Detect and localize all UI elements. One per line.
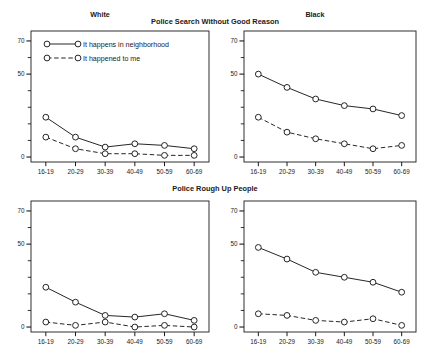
data-point-marker xyxy=(313,269,319,275)
legend-marker xyxy=(75,55,81,61)
data-point-marker xyxy=(132,141,138,147)
data-point-marker xyxy=(399,143,405,149)
legend: It happens in neighborhoodIt happened to… xyxy=(44,41,169,63)
data-point-marker xyxy=(73,134,79,140)
data-point-marker xyxy=(255,311,261,317)
data-point-marker xyxy=(73,299,79,305)
data-point-marker xyxy=(341,319,347,325)
data-point-marker xyxy=(162,311,168,317)
y-tick-label: 0 xyxy=(234,323,238,330)
series-line-happened-to-me xyxy=(258,314,401,326)
y-tick-label: 50 xyxy=(230,240,238,247)
x-tick-label: 50-59 xyxy=(365,338,382,345)
y-tick-label: 0 xyxy=(21,153,25,160)
x-tick-label: 50-59 xyxy=(156,338,173,345)
data-point-marker xyxy=(43,134,49,140)
data-point-marker xyxy=(313,136,319,142)
x-tick-label: 60-69 xyxy=(186,338,203,345)
x-tick-label: 30-39 xyxy=(308,168,325,175)
data-point-marker xyxy=(341,274,347,280)
data-point-marker xyxy=(255,71,261,77)
y-tick-label: 50 xyxy=(230,70,238,77)
data-point-marker xyxy=(162,152,168,158)
panel-frame xyxy=(244,201,416,332)
row-title-police-search: Police Search Without Good Reason xyxy=(110,17,320,26)
panel-group-black-3: 0507016-1920-2930-3940-4950-5960-69 xyxy=(230,201,416,345)
data-point-marker xyxy=(102,151,108,157)
x-tick-label: 60-69 xyxy=(394,168,411,175)
data-point-marker xyxy=(370,106,376,112)
data-point-marker xyxy=(43,319,49,325)
y-tick-label: 70 xyxy=(17,37,25,44)
plot-canvas: 0507016-1920-2930-3940-4950-5960-6905070… xyxy=(0,0,425,360)
data-point-marker xyxy=(43,114,49,120)
x-tick-label: 20-29 xyxy=(279,338,296,345)
series-line-happened-to-me xyxy=(46,322,194,327)
x-tick-label: 60-69 xyxy=(394,338,411,345)
data-point-marker xyxy=(132,324,138,330)
data-point-marker xyxy=(370,279,376,285)
x-tick-label: 30-39 xyxy=(308,338,325,345)
x-tick-label: 16-19 xyxy=(250,338,267,345)
data-point-marker xyxy=(399,113,405,119)
x-tick-label: 16-19 xyxy=(38,168,55,175)
data-point-marker xyxy=(284,313,290,319)
data-point-marker xyxy=(284,256,290,262)
data-point-marker xyxy=(255,114,261,120)
data-point-marker xyxy=(191,152,197,158)
x-tick-label: 20-29 xyxy=(279,168,296,175)
data-point-marker xyxy=(284,129,290,135)
row-title-police-rough-up: Police Rough Up People xyxy=(110,184,320,193)
y-tick-label: 70 xyxy=(17,207,25,214)
panel-group-white-2: 0507016-1920-2930-3940-4950-5960-69 xyxy=(17,201,209,345)
x-tick-label: 40-49 xyxy=(336,168,353,175)
figure-root: White Black Police Search Without Good R… xyxy=(0,0,425,360)
data-point-marker xyxy=(191,146,197,152)
x-tick-label: 40-49 xyxy=(127,168,144,175)
data-point-marker xyxy=(370,146,376,152)
x-tick-label: 16-19 xyxy=(250,168,267,175)
data-point-marker xyxy=(341,103,347,109)
panel-frame xyxy=(244,31,416,162)
legend-marker xyxy=(44,41,50,47)
y-tick-label: 70 xyxy=(230,37,238,44)
legend-marker xyxy=(44,55,50,61)
y-tick-label: 70 xyxy=(230,207,238,214)
x-tick-label: 20-29 xyxy=(67,168,84,175)
data-point-marker xyxy=(132,314,138,320)
x-tick-label: 50-59 xyxy=(365,168,382,175)
x-tick-label: 40-49 xyxy=(127,338,144,345)
panel-group-white-0: 0507016-1920-2930-3940-4950-5960-69 xyxy=(17,31,209,175)
series-line-neighborhood xyxy=(46,117,194,148)
panel-frame xyxy=(31,31,209,162)
x-tick-label: 30-39 xyxy=(97,168,114,175)
data-point-marker xyxy=(43,284,49,290)
panel-frame xyxy=(31,201,209,332)
data-point-marker xyxy=(132,151,138,157)
data-point-marker xyxy=(284,84,290,90)
series-line-neighborhood xyxy=(258,247,401,292)
legend-label: It happened to me xyxy=(83,55,140,63)
data-point-marker xyxy=(73,146,79,152)
data-point-marker xyxy=(370,316,376,322)
data-point-marker xyxy=(191,324,197,330)
y-tick-label: 50 xyxy=(17,240,25,247)
series-line-neighborhood xyxy=(46,287,194,320)
data-point-marker xyxy=(102,144,108,150)
data-point-marker xyxy=(341,141,347,147)
series-line-neighborhood xyxy=(258,74,401,115)
x-tick-label: 16-19 xyxy=(38,338,55,345)
series-line-happened-to-me xyxy=(258,117,401,148)
x-tick-label: 30-39 xyxy=(97,338,114,345)
data-point-marker xyxy=(313,96,319,102)
x-tick-label: 60-69 xyxy=(186,168,203,175)
data-point-marker xyxy=(313,317,319,323)
x-tick-label: 20-29 xyxy=(67,338,84,345)
data-point-marker xyxy=(102,313,108,319)
data-point-marker xyxy=(255,245,261,251)
legend-marker xyxy=(75,41,81,47)
y-tick-label: 50 xyxy=(17,70,25,77)
y-tick-label: 0 xyxy=(21,323,25,330)
panel-group-black-1: 0507016-1920-2930-3940-4950-5960-69 xyxy=(230,31,416,175)
x-tick-label: 40-49 xyxy=(336,338,353,345)
